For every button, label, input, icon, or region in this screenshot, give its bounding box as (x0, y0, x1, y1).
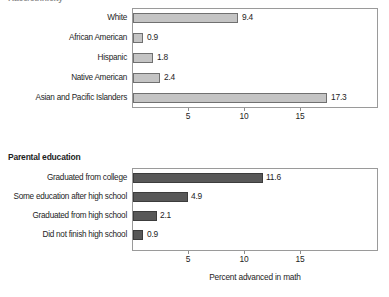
x-axis-tick-label: 10 (232, 254, 256, 264)
x-axis-tick-label: 5 (176, 254, 200, 264)
bar-row: Graduated from high school 2.1 (0, 211, 389, 221)
x-axis-tick-label: 10 (232, 111, 256, 121)
bar-row: Did not finish high school 0.9 (0, 230, 389, 240)
bar[interactable] (133, 13, 238, 23)
bar-row: Native American 2.4 (0, 73, 389, 83)
bar[interactable] (133, 173, 263, 183)
bar[interactable] (133, 230, 143, 240)
bar-row: Graduated from college 11.6 (0, 173, 389, 183)
bar-value-label: 0.9 (147, 32, 158, 43)
x-axis-tick-label: 5 (176, 111, 200, 121)
category-label: Native American (0, 72, 127, 83)
bar-value-label: 2.1 (160, 210, 171, 221)
chart-title-parental-education: Parental education (8, 152, 80, 162)
chart-title-race-ethnicity: Race/ethnicity (8, 0, 63, 3)
category-label: Graduated from high school (0, 210, 127, 221)
bar-value-label: 1.8 (157, 52, 168, 63)
category-label: Hispanic (0, 52, 127, 63)
x-axis-tick-label: 15 (288, 254, 312, 264)
x-axis-title: Percent advanced in math (132, 272, 378, 282)
bar[interactable] (133, 211, 157, 221)
category-label: White (0, 12, 127, 23)
bar[interactable] (133, 33, 143, 43)
bar-value-label: 0.9 (147, 229, 158, 240)
bar-value-label: 4.9 (191, 191, 202, 202)
bar-value-label: 9.4 (242, 12, 253, 23)
x-axis-parental-education: 5 10 15 (132, 251, 378, 267)
category-label: Graduated from college (0, 172, 127, 183)
bar[interactable] (133, 73, 160, 83)
x-axis-race-ethnicity: 5 10 15 (132, 108, 378, 124)
bar[interactable] (133, 53, 153, 63)
bar-row: Asian and Pacific Islanders 17.3 (0, 93, 389, 103)
bar-row: Some education after high school 4.9 (0, 192, 389, 202)
bar[interactable] (133, 93, 327, 103)
bar-row: White 9.4 (0, 13, 389, 23)
bar[interactable] (133, 192, 188, 202)
bar-value-label: 2.4 (164, 72, 175, 83)
category-label: Some education after high school (0, 191, 127, 202)
bar-row: Hispanic 1.8 (0, 53, 389, 63)
category-label: African American (0, 32, 127, 43)
bar-value-label: 11.6 (266, 172, 281, 183)
category-label: Asian and Pacific Islanders (0, 92, 127, 103)
x-axis-tick-label: 15 (288, 111, 312, 121)
bar-row: African American 0.9 (0, 33, 389, 43)
bar-value-label: 17.3 (331, 92, 347, 103)
category-label: Did not finish high school (0, 229, 127, 240)
